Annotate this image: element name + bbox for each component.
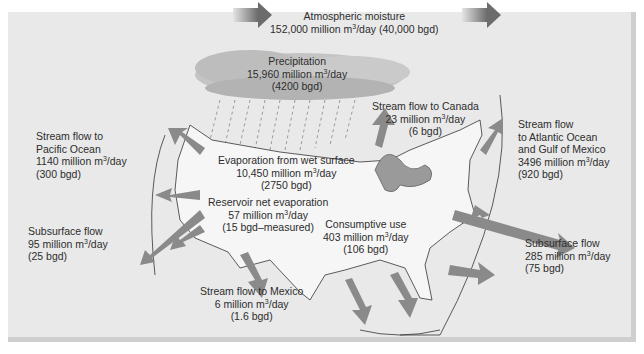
consumptive-use-label: Consumptive use 403 million m3/day (106 … xyxy=(323,218,409,256)
subsurface-west-label: Subsurface flow 95 million m3/day (25 bg… xyxy=(28,225,108,263)
rain-icon xyxy=(210,100,355,150)
stream-flow-mexico-label: Stream flow to Mexico 6 million m3/day (… xyxy=(200,285,303,323)
stream-flow-canada-label: Stream flow to Canada 23 million m3/day … xyxy=(372,100,479,138)
reservoir-evaporation-label: Reservoir net evaporation 57 million m3/… xyxy=(208,196,328,234)
stream-flow-pacific-label: Stream flow to Pacific Ocean 1140 millio… xyxy=(36,130,127,180)
precipitation-label: Precipitation 15,960 million m3/day (420… xyxy=(247,55,347,93)
evaporation-label: Evaporation from wet surface 10,450 mill… xyxy=(218,154,355,192)
atmospheric-moisture-label: Atmospheric moisture 152,000 million m3/… xyxy=(270,10,439,35)
stream-flow-atlantic-label: Stream flow to Atlantic Ocean and Gulf o… xyxy=(518,118,609,181)
subsurface-east-label: Subsurface flow 285 million m3/day (75 b… xyxy=(525,237,611,275)
